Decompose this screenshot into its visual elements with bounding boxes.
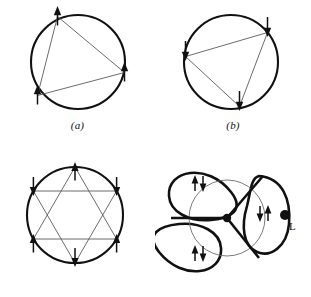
panel-b: (b): [155, 0, 311, 148]
ring-outline: [31, 15, 125, 109]
spin-arrow-down-bottom: [71, 248, 78, 267]
panel-b-caption: (b): [155, 119, 311, 131]
lobe-group: [155, 173, 289, 271]
panel-a-caption: (a): [0, 119, 155, 131]
lobe-lower-left: [155, 224, 221, 271]
ring-outline: [184, 15, 278, 109]
hub-center-dot: [223, 214, 231, 222]
spin-arrow-up-top: [54, 6, 61, 26]
figure-panel-grid: (a) (b): [0, 0, 311, 297]
marker-dot: [280, 210, 290, 220]
marker-label-L: L: [289, 220, 296, 232]
spin-arrow-down-upper-right: [264, 17, 271, 37]
panel-d-canvas: L: [155, 148, 311, 297]
panel-c-canvas: [0, 148, 155, 297]
panel-a: (a): [0, 0, 155, 148]
panel-d: L (d): [155, 148, 311, 297]
panel-c: (c): [0, 148, 155, 297]
